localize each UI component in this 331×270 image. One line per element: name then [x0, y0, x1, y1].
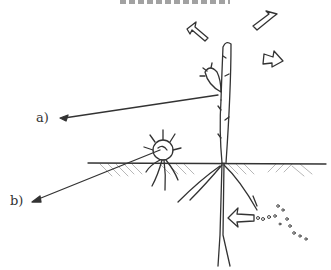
diagram-canvas: [0, 0, 331, 270]
label-a: a): [36, 110, 49, 125]
seedling-stem: [200, 43, 231, 163]
seed: [144, 130, 181, 190]
label-b: b): [10, 193, 23, 208]
inflow-arrow: [228, 208, 254, 227]
particles: [257, 205, 308, 241]
outflow-arrow-3: [263, 51, 283, 67]
outflow-arrow-2: [253, 11, 277, 30]
soil-hatch: [100, 164, 312, 176]
outflow-arrow-1: [187, 22, 208, 41]
leader-b: [36, 150, 160, 200]
leader-a: [64, 95, 218, 118]
